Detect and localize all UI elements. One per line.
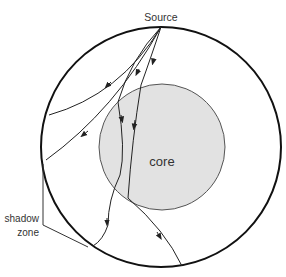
- shadow-zone-label-line2: zone: [17, 227, 39, 238]
- seismic-shadow-zone-diagram: Source core shadow zone: [0, 0, 286, 277]
- source-label: Source: [144, 11, 177, 23]
- shadow-zone-label-line1: shadow: [5, 213, 40, 224]
- core-label: core: [149, 154, 174, 169]
- shadow-zone-bracket: [43, 164, 88, 247]
